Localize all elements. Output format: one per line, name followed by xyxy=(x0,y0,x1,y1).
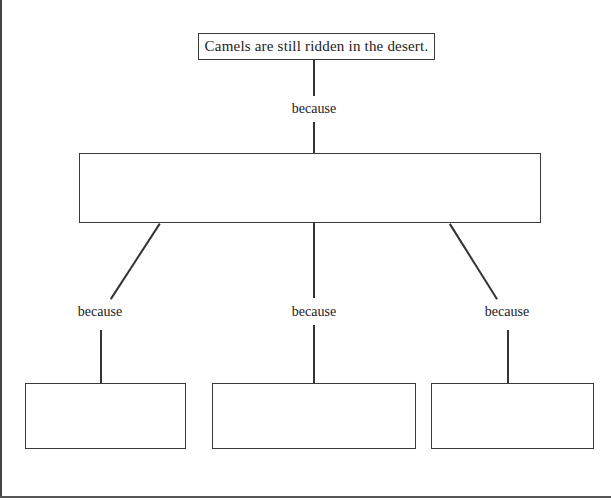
frame-bottom-border xyxy=(0,496,611,498)
connector-root-lower xyxy=(313,122,315,154)
because-label-root: because xyxy=(292,101,336,117)
reason-box[interactable] xyxy=(79,153,541,223)
leaf-box-left[interactable] xyxy=(25,383,186,449)
frame-left-border xyxy=(0,0,2,498)
root-statement-text: Camels are still ridden in the desert. xyxy=(205,38,429,55)
connector-right-vertical xyxy=(507,330,509,383)
connector-left-vertical xyxy=(100,330,102,383)
because-label-left: because xyxy=(78,304,122,320)
leaf-box-right[interactable] xyxy=(431,383,594,449)
because-label-center: because xyxy=(292,304,336,320)
connector-center-lower xyxy=(313,325,315,383)
because-label-right: because xyxy=(485,304,529,320)
root-statement-box: Camels are still ridden in the desert. xyxy=(198,33,435,60)
connector-root-upper xyxy=(313,59,315,96)
connector-left-diagonal xyxy=(110,223,160,299)
leaf-box-center[interactable] xyxy=(212,383,416,449)
connector-right-diagonal xyxy=(449,223,498,299)
connector-center-upper xyxy=(313,222,315,298)
